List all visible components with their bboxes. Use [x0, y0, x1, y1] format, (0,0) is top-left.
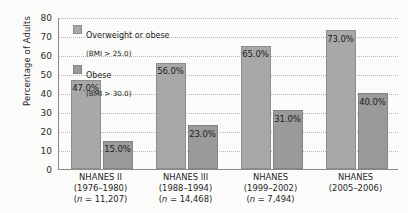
y-axis-tick-label: 20: [6, 127, 52, 137]
y-axis-tick-label: 30: [6, 108, 52, 118]
x-label-period: (1976–1980): [58, 183, 143, 194]
x-label-survey-name: NHANES II: [58, 172, 143, 183]
y-axis-tick-label: 0: [6, 165, 52, 175]
bar-obese[interactable]: 31.0%: [273, 110, 303, 169]
bar-obese[interactable]: 23.0%: [188, 125, 218, 169]
bar-chart-figure: Percentage of Adults 80706050403020100 4…: [0, 0, 408, 213]
x-label-period: (2005–2006): [313, 183, 398, 194]
x-label-period: (1999–2002): [228, 183, 313, 194]
legend-item: Obese(BMI > 30.0): [73, 64, 203, 101]
y-axis-tick-label: 70: [6, 32, 52, 42]
legend-text: Obese(BMI > 30.0): [86, 64, 131, 101]
y-axis-tick-label: 60: [6, 51, 52, 61]
bar-value-label: 65.0%: [242, 49, 270, 59]
x-label-survey-name: NHANES III: [143, 172, 228, 183]
y-axis-tick-label: 10: [6, 146, 52, 156]
y-axis-tick-labels: 80706050403020100: [0, 18, 52, 170]
x-axis-group-label: NHANES(2005–2006): [313, 172, 398, 194]
y-axis-tick-label: 40: [6, 89, 52, 99]
chart-legend: Overweight or obese(BMI > 25.0)Obese(BMI…: [73, 24, 203, 104]
bar-group: 73.0%40.0%: [314, 18, 399, 169]
legend-item: Overweight or obese(BMI > 25.0): [73, 24, 203, 61]
y-axis-tick-label: 50: [6, 70, 52, 80]
bar-obese[interactable]: 40.0%: [358, 93, 388, 169]
bar-value-label: 73.0%: [327, 34, 355, 44]
x-label-period: (1988–1994): [143, 183, 228, 194]
bar-value-label: 15.0%: [104, 144, 132, 154]
x-axis-category-labels: NHANES II(1976–1980)(n = 11,207)NHANES I…: [58, 172, 398, 213]
x-label-survey-name: NHANES: [313, 172, 398, 183]
legend-swatch-obese: [73, 65, 82, 74]
bar-overweight[interactable]: 73.0%: [326, 30, 356, 169]
x-label-sample-size: (n = 11,207): [58, 194, 143, 205]
x-label-sample-size: (n = 7,494): [228, 194, 313, 205]
legend-item-label: Overweight or obese: [86, 31, 169, 40]
x-label-survey-name: NHANES: [228, 172, 313, 183]
bar-value-label: 40.0%: [359, 97, 387, 107]
bar-value-label: 23.0%: [189, 129, 217, 139]
legend-swatch-overweight: [73, 25, 82, 34]
legend-item-label: Obese: [86, 71, 111, 80]
x-label-sample-size: (n = 14,468): [143, 194, 228, 205]
legend-item-sublabel: (BMI > 25.0): [86, 49, 131, 58]
x-axis-group-label: NHANES III(1988–1994)(n = 14,468): [143, 172, 228, 205]
bar-obese[interactable]: 15.0%: [103, 141, 133, 170]
legend-item-sublabel: (BMI > 30.0): [86, 89, 131, 98]
bar-group: 65.0%31.0%: [229, 18, 314, 169]
legend-text: Overweight or obese(BMI > 25.0): [86, 24, 169, 61]
x-axis-group-label: NHANES(1999–2002)(n = 7,494): [228, 172, 313, 205]
x-axis-group-label: NHANES II(1976–1980)(n = 11,207): [58, 172, 143, 205]
bar-overweight[interactable]: 65.0%: [241, 46, 271, 170]
y-axis-tick-label: 80: [6, 13, 52, 23]
bar-value-label: 31.0%: [274, 114, 302, 124]
